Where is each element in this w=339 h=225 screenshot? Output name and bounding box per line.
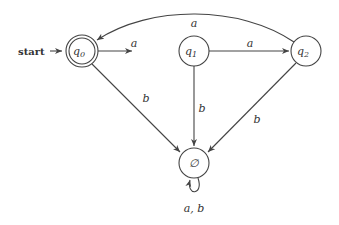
state-q1: q1 — [179, 36, 209, 66]
edge-empty-self-loop — [189, 178, 199, 192]
state-q2-name: q — [297, 45, 304, 58]
state-q0-name: q — [73, 45, 80, 58]
edge-q2-empty — [208, 63, 296, 152]
edge-q0-empty — [92, 64, 180, 152]
state-q0-sub: 0 — [80, 50, 85, 59]
state-q1-name: q — [185, 45, 192, 58]
start-label: start — [18, 46, 45, 57]
edge-label-q1-empty: b — [198, 102, 205, 115]
state-empty-name: ∅ — [189, 157, 199, 170]
edge-label-q0-empty: b — [142, 92, 149, 105]
state-q2: q2 — [291, 36, 321, 66]
state-empty: ∅ — [179, 148, 209, 178]
edge-label-q0-q1: a — [131, 37, 138, 50]
edge-label-q2-empty: b — [253, 113, 260, 126]
dfa-diagram: start a a a b b b a, b q0 q1 q2 ∅ — [0, 0, 339, 225]
edge-label-empty-loop: a, b — [184, 202, 205, 215]
state-q2-sub: 2 — [303, 50, 309, 59]
state-q1-sub: 1 — [192, 50, 197, 59]
edge-label-q1-q2: a — [247, 37, 254, 50]
state-q0: q0 — [66, 35, 98, 67]
edge-label-q2-q0: a — [191, 17, 198, 30]
